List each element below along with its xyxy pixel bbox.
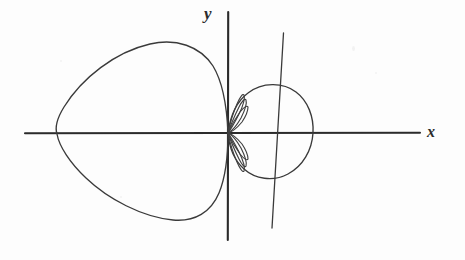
outer-loop-curve [56,42,228,220]
figure-canvas [0,0,465,260]
polar-curve-figure: y x [0,0,465,260]
y-axis-label: y [204,5,212,22]
right-loop-curve [228,85,313,179]
x-axis-label: x [427,124,435,140]
tangent-line [272,33,284,228]
